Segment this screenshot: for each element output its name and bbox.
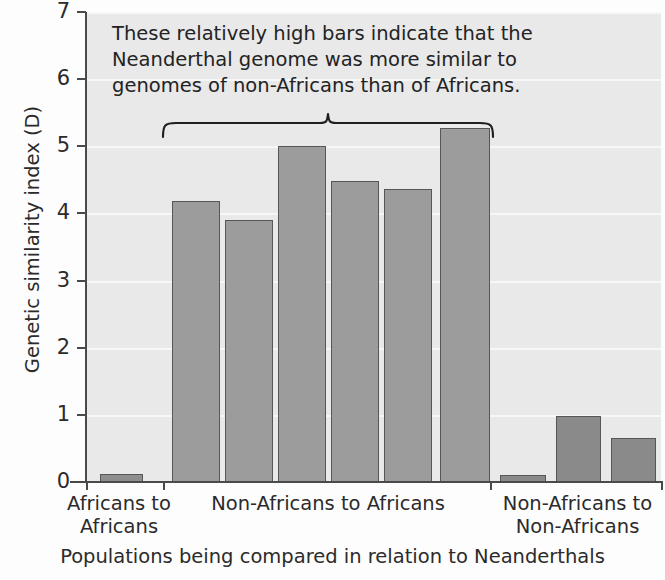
y-tick-label: 5 [42, 135, 70, 156]
x-axis-title: Populations being compared in relation t… [0, 545, 665, 568]
annotation-line: genomes of non-Africans than of Africans… [112, 73, 592, 99]
annotation-line: These relatively high bars indicate that… [112, 21, 592, 47]
bar [440, 128, 490, 482]
annotation-line: Neanderthal genome was more similar to [112, 47, 592, 73]
x-group-label-non-africans-to-africans: Non-Africans to Africans [183, 492, 473, 515]
x-group-label-non-africans-to-non-africans: Non-Africans to Non-Africans [490, 492, 665, 539]
y-tick-label: 4 [42, 202, 70, 223]
x-tick-mark [86, 481, 88, 490]
y-tick-label: 7 [42, 1, 70, 22]
bar [331, 181, 379, 482]
y-tick-mark [77, 280, 86, 282]
bar [225, 220, 273, 482]
y-tick-label: 3 [42, 270, 70, 291]
y-tick-label: 1 [42, 404, 70, 425]
y-tick-label: 2 [42, 337, 70, 358]
bar [384, 189, 432, 482]
brace-svg [160, 110, 496, 140]
y-tick-mark [77, 414, 86, 416]
x-tick-mark [661, 481, 663, 490]
bar [278, 146, 326, 482]
y-axis-line [85, 12, 87, 482]
group-brace-icon [160, 110, 496, 140]
y-tick-mark [77, 145, 86, 147]
y-tick-label: 0 [42, 471, 70, 492]
x-tick-mark [490, 481, 492, 490]
bar [611, 438, 656, 482]
bar [556, 416, 601, 482]
y-tick-mark [77, 78, 86, 80]
bar [172, 201, 220, 482]
chart-figure: 01234567 Genetic similarity index (D) Th… [0, 0, 665, 580]
y-tick-mark [77, 347, 86, 349]
gridline [86, 146, 661, 148]
y-tick-label: 6 [42, 68, 70, 89]
x-tick-mark [163, 481, 165, 490]
y-tick-mark [77, 212, 86, 214]
annotation-text: These relatively high bars indicate that… [112, 21, 592, 99]
x-group-label-africans-to-africans: Africans to Africans [44, 492, 194, 539]
x-axis-line [70, 481, 662, 483]
gridline [86, 12, 661, 14]
y-axis-title: Genetic similarity index (D) [21, 40, 44, 440]
y-tick-mark [77, 11, 86, 13]
